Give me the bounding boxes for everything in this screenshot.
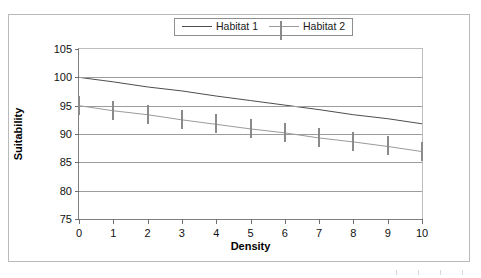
- x-tick-mark-7: [319, 219, 320, 224]
- open-square-icon: [387, 136, 389, 155]
- legend-label-habitat-1: Habitat 1: [216, 21, 258, 32]
- y-tick-mark-100: [75, 77, 79, 78]
- legend-entry-habitat-1[interactable]: Habitat 1: [182, 21, 258, 32]
- legend-label-habitat-2: Habitat 2: [303, 21, 345, 32]
- y-tick-mark-85: [75, 162, 79, 163]
- y-tick-label-105: 105: [54, 43, 72, 55]
- scan-artifact-strip: [0, 264, 481, 278]
- open-square-icon: [78, 96, 80, 115]
- gridline-y-95: [79, 106, 422, 107]
- y-tick-label-80: 80: [60, 185, 72, 197]
- x-tick-mark-3: [182, 219, 183, 224]
- y-tick-mark-80: [75, 191, 79, 192]
- x-tick-label-6: 6: [282, 227, 288, 239]
- data-point-habitat-2-7[interactable]: [318, 129, 320, 147]
- x-tick-label-9: 9: [385, 227, 391, 239]
- x-tick-mark-4: [216, 219, 217, 224]
- x-tick-mark-10: [422, 219, 423, 224]
- legend-marker-open-square-icon: [269, 21, 299, 31]
- gridline-y-100: [79, 77, 422, 78]
- y-tick-mark-105: [75, 49, 79, 50]
- x-tick-mark-2: [148, 219, 149, 224]
- gridline-y-85: [79, 162, 422, 163]
- x-tick-mark-0: [79, 219, 80, 224]
- legend-marker-filled-diamond-icon: [182, 21, 212, 31]
- data-point-habitat-2-10[interactable]: [421, 143, 423, 161]
- y-tick-label-75: 75: [60, 213, 72, 225]
- y-tick-label-95: 95: [60, 100, 72, 112]
- data-point-habitat-2-6[interactable]: [284, 124, 286, 142]
- open-square-icon: [318, 128, 320, 147]
- open-square-icon: [250, 119, 252, 138]
- x-tick-label-4: 4: [213, 227, 219, 239]
- data-point-habitat-2-4[interactable]: [215, 115, 217, 133]
- x-axis-title: Density: [78, 240, 423, 252]
- y-axis-title: Suitability: [12, 108, 24, 161]
- chart-legend: Habitat 1 Habitat 2: [174, 18, 353, 36]
- gridline-y-80: [79, 191, 422, 192]
- open-square-icon: [147, 105, 149, 124]
- data-point-habitat-2-1[interactable]: [112, 102, 114, 120]
- x-tick-label-7: 7: [316, 227, 322, 239]
- x-tick-mark-9: [388, 219, 389, 224]
- x-tick-mark-8: [353, 219, 354, 224]
- open-square-icon: [181, 110, 183, 129]
- plot-area: 7580859095100105012345678910: [78, 48, 423, 220]
- data-point-habitat-2-2[interactable]: [147, 106, 149, 124]
- chart-container: Habitat 1 Habitat 2 75808590951001050123…: [0, 0, 481, 278]
- data-point-habitat-2-3[interactable]: [181, 111, 183, 129]
- x-tick-label-5: 5: [247, 227, 253, 239]
- open-square-icon: [284, 123, 286, 142]
- y-tick-mark-90: [75, 134, 79, 135]
- x-tick-label-1: 1: [110, 227, 116, 239]
- open-square-icon: [112, 101, 114, 120]
- open-square-icon: [352, 132, 354, 151]
- x-tick-mark-6: [285, 219, 286, 224]
- x-tick-label-3: 3: [179, 227, 185, 239]
- series-line-habitat-1: [79, 77, 422, 123]
- x-tick-label-0: 0: [76, 227, 82, 239]
- open-square-icon: [421, 142, 423, 161]
- data-point-habitat-2-0[interactable]: [78, 97, 80, 115]
- open-square-icon: [215, 114, 217, 133]
- y-tick-label-85: 85: [60, 156, 72, 168]
- data-point-habitat-2-5[interactable]: [250, 120, 252, 138]
- x-tick-mark-5: [251, 219, 252, 224]
- x-tick-mark-1: [113, 219, 114, 224]
- x-tick-label-2: 2: [145, 227, 151, 239]
- legend-entry-habitat-2[interactable]: Habitat 2: [269, 21, 345, 32]
- data-point-habitat-2-9[interactable]: [387, 137, 389, 155]
- x-tick-label-8: 8: [350, 227, 356, 239]
- y-tick-label-90: 90: [60, 128, 72, 140]
- x-tick-label-10: 10: [416, 227, 428, 239]
- y-tick-label-100: 100: [54, 71, 72, 83]
- data-point-habitat-2-8[interactable]: [352, 133, 354, 151]
